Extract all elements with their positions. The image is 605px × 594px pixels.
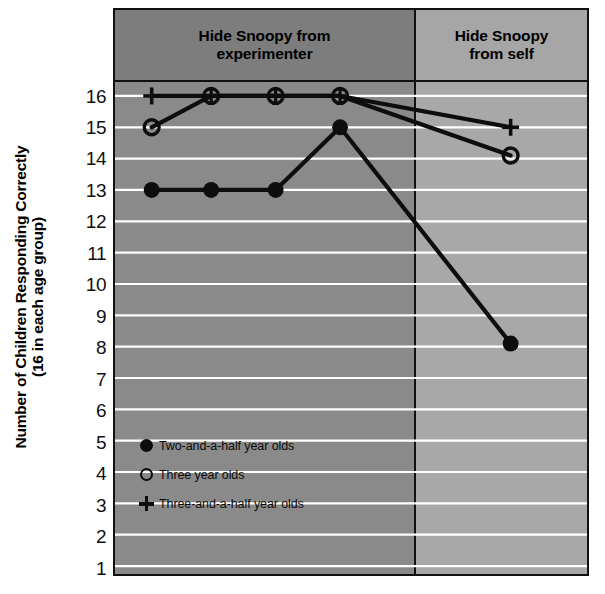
y-tick-1: 1 [96, 558, 106, 580]
y-axis-title-line1: Number of Children Responding Correctly [12, 145, 29, 448]
legend: Two-and-a-half year olds Three year olds… [133, 431, 383, 518]
plot-area: Two-and-a-half year olds Three year olds… [115, 82, 587, 574]
panel-header-experimenter-line1: Hide Snoopy from [199, 27, 331, 44]
panel-header-self-line2: from self [469, 45, 534, 62]
y-tick-9: 9 [96, 306, 106, 328]
legend-item-two-and-a-half: Two-and-a-half year olds [133, 431, 383, 460]
y-tick-16: 16 [86, 86, 106, 108]
legend-label-three: Three year olds [159, 468, 244, 482]
y-tick-3: 3 [96, 495, 106, 517]
marker-two-and-a-half-year-olds-x1 [144, 182, 160, 198]
plot-frame: Hide Snoopy from experimenter Hide Snoop… [113, 8, 589, 576]
marker-two-and-a-half-year-olds-x2 [203, 182, 219, 198]
y-tick-6: 6 [96, 400, 106, 422]
panel-header-row: Hide Snoopy from experimenter Hide Snoop… [115, 10, 587, 82]
panel-header-self-line1: Hide Snoopy [455, 27, 549, 44]
y-tick-15: 15 [86, 117, 106, 139]
panel-header-experimenter-line2: experimenter [216, 45, 312, 62]
y-tick-14: 14 [86, 148, 106, 170]
series-line-two-and-a-half-year-olds [152, 127, 511, 343]
y-axis-tick-labels: 16151413121110987654321 [62, 0, 110, 594]
panel-header-self: Hide Snoopy from self [416, 10, 587, 80]
chart-figure: Number of Children Responding Correctly … [0, 0, 605, 594]
open-circle-icon [133, 468, 159, 481]
y-axis-title-line2: (16 in each age group) [29, 145, 46, 448]
marker-two-and-a-half-year-olds-x5 [503, 336, 519, 352]
y-tick-5: 5 [96, 432, 106, 454]
y-tick-8: 8 [96, 337, 106, 359]
plus-icon [133, 496, 159, 511]
legend-item-three: Three year olds [133, 460, 383, 489]
marker-two-and-a-half-year-olds-x4 [332, 119, 348, 135]
y-tick-2: 2 [96, 526, 106, 548]
series-group [152, 96, 511, 344]
filled-circle-icon [133, 439, 159, 452]
y-tick-13: 13 [86, 180, 106, 202]
y-tick-11: 11 [87, 243, 106, 265]
legend-label-three-and-a-half: Three-and-a-half year olds [159, 497, 304, 511]
legend-item-three-and-a-half: Three-and-a-half year olds [133, 489, 383, 518]
y-tick-7: 7 [96, 369, 106, 391]
series-line-three-year-olds [152, 96, 511, 156]
y-tick-10: 10 [86, 274, 106, 296]
legend-label-two-and-a-half: Two-and-a-half year olds [159, 439, 294, 453]
panel-header-experimenter: Hide Snoopy from experimenter [115, 10, 416, 80]
y-tick-4: 4 [96, 463, 106, 485]
y-tick-12: 12 [86, 211, 106, 233]
y-axis-title: Number of Children Responding Correctly … [0, 0, 58, 594]
marker-two-and-a-half-year-olds-x3 [268, 182, 284, 198]
